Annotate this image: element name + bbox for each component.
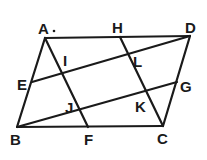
label-l: L	[133, 53, 142, 70]
segment-ad	[45, 36, 190, 38]
point-a-dot	[53, 30, 56, 33]
segment-cb	[17, 126, 163, 127]
geometry-diagram: A H D E I L G J K B F C	[0, 0, 207, 160]
label-e: E	[17, 76, 27, 93]
label-h: H	[112, 19, 123, 36]
label-c: C	[157, 130, 168, 147]
label-b: B	[10, 131, 21, 148]
label-f: F	[84, 131, 93, 148]
parallelogram-abcd	[17, 36, 190, 127]
label-d: D	[185, 19, 196, 36]
label-g: G	[180, 78, 192, 95]
label-i: I	[63, 52, 67, 69]
label-j: J	[65, 99, 73, 116]
label-k: K	[135, 98, 146, 115]
label-a: A	[38, 20, 49, 37]
inner-lines	[17, 36, 190, 127]
